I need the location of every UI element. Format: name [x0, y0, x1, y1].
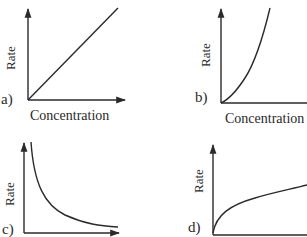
panel-label-d: d) — [188, 219, 201, 236]
panel-a: Rate a) Concentration — [1, 8, 125, 123]
x-axis-label-b: Concentration — [225, 111, 304, 126]
panel-label-c: c) — [2, 221, 14, 237]
panel-c: Rate c) — [2, 142, 119, 237]
curve-a-linear — [28, 8, 118, 100]
y-axis-label-b: Rate — [198, 43, 213, 67]
curve-b-quadratic — [221, 8, 270, 103]
panel-label-b: b) — [195, 89, 208, 106]
x-axis-label-a: Concentration — [30, 108, 109, 123]
panel-label-a: a) — [1, 91, 13, 108]
panel-b: Rate b) Concentration — [195, 8, 307, 126]
y-axis-label-c: Rate — [2, 182, 17, 206]
panel-d: Rate d) — [188, 145, 307, 236]
rate-concentration-diagrams: Rate a) Concentration Rate b) Concentrat… — [0, 0, 307, 237]
y-axis-label-a: Rate — [3, 46, 18, 70]
curve-c-inverse — [31, 142, 118, 227]
y-axis-label-d: Rate — [191, 169, 206, 193]
curve-d-sqrt — [213, 185, 307, 233]
